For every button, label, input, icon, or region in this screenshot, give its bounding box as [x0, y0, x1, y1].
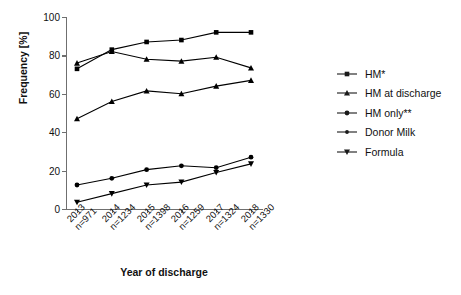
legend-item[interactable]: HM*	[336, 64, 458, 84]
y-tick-label: 100	[43, 12, 60, 23]
legend-marker-icon	[336, 126, 358, 138]
legend-marker-icon	[336, 146, 358, 158]
data-point-marker	[179, 38, 184, 43]
data-series	[75, 155, 254, 188]
data-point-marker	[248, 77, 254, 83]
legend-label: HM*	[365, 68, 385, 80]
series-line	[77, 164, 251, 202]
data-point-marker	[214, 165, 219, 170]
legend-item[interactable]: HM only**	[336, 103, 458, 123]
legend-item[interactable]: HM at discharge	[336, 84, 458, 104]
x-axis-title: Year of discharge	[66, 266, 262, 278]
legend-label: HM at discharge	[365, 87, 441, 99]
data-point-marker	[74, 116, 80, 122]
data-series-layer	[66, 17, 262, 209]
data-point-marker	[214, 30, 219, 35]
series-line	[77, 32, 251, 68]
data-point-marker	[179, 163, 184, 168]
legend-marker-icon	[336, 107, 358, 119]
data-series	[74, 49, 254, 71]
series-line	[77, 157, 251, 185]
data-point-marker	[74, 200, 80, 206]
data-point-marker	[144, 40, 149, 45]
legend-item[interactable]: Donor Milk	[336, 123, 458, 143]
y-tick-mark	[62, 209, 66, 210]
legend-label: Donor Milk	[365, 126, 415, 138]
chart-legend: HM*HM at dischargeHM only**Donor MilkFor…	[336, 64, 458, 162]
y-tick-label: 40	[49, 127, 60, 138]
data-point-marker	[249, 30, 254, 35]
y-axis-title: Frequency [%]	[17, 0, 29, 138]
series-line	[77, 80, 251, 118]
data-series	[75, 30, 254, 71]
legend-label: HM only**	[365, 107, 412, 119]
plot-area: 020406080100 2013n=9712014n=12342015n=13…	[66, 17, 262, 209]
data-series	[74, 77, 254, 121]
data-point-marker	[144, 167, 149, 172]
series-line	[77, 52, 251, 68]
legend-label: Formula	[365, 146, 404, 158]
legend-marker-icon	[336, 68, 358, 80]
data-point-marker	[75, 183, 80, 188]
legend-marker-icon	[336, 87, 358, 99]
y-tick-label: 20	[49, 165, 60, 176]
y-tick-label: 0	[54, 204, 60, 215]
y-tick-label: 80	[49, 50, 60, 61]
data-point-marker	[249, 155, 254, 160]
data-point-marker	[75, 67, 80, 72]
data-point-marker	[109, 176, 114, 181]
y-tick-label: 60	[49, 88, 60, 99]
chart-root: Frequency [%] 020406080100 2013n=9712014…	[0, 0, 461, 295]
legend-item[interactable]: Formula	[336, 142, 458, 162]
